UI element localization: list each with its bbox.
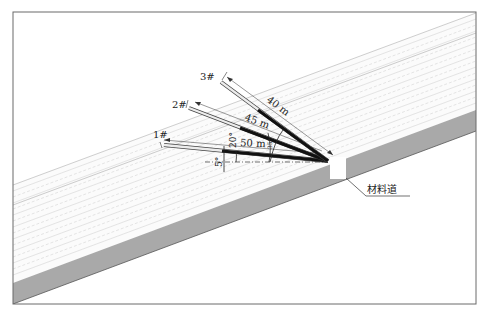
borehole-2-label: 2# (172, 99, 187, 110)
angle-35-label: 35° (266, 138, 273, 149)
slope-diagram: 3# 2# 1# 40 m 45 m 50 m 20° 5° 35° 材料道 (0, 0, 486, 315)
material-passage-label: 材料道 (367, 183, 397, 195)
borehole-3-label: 3# (200, 71, 215, 82)
borehole-1-label: 1# (153, 129, 168, 140)
angle-5-label: 5° (214, 157, 224, 167)
material-passage-opening (330, 157, 346, 179)
angle-20-label: 20° (228, 132, 238, 148)
borehole-1-length: 50 m (240, 137, 266, 149)
